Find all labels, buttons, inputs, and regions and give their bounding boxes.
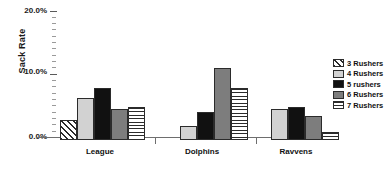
bar-league-7-rushers (128, 107, 145, 140)
y-minor-tick (52, 112, 56, 113)
bar-ravvens-5-rushers (288, 107, 305, 140)
y-minor-tick (52, 80, 56, 81)
bar-league-6-rushers (111, 109, 128, 141)
legend-swatch-3-rushers (333, 59, 344, 67)
y-minor-tick (52, 99, 56, 100)
bar-league-5-rushers (94, 88, 111, 140)
legend-item-7-rushers[interactable]: 7 Rushers (333, 100, 391, 111)
legend-label-5-rushers: 5 rushers (347, 80, 381, 89)
x-axis-label-dolphins: Dolphins (162, 147, 242, 156)
category-separator (256, 137, 257, 144)
bar-dolphins-7-rushers (231, 88, 248, 140)
x-axis-label-ravvens: Ravvens (258, 147, 334, 156)
y-minor-tick (52, 29, 56, 30)
bar-dolphins-5-rushers (197, 112, 214, 140)
y-minor-tick (52, 67, 56, 68)
legend-label-3-rushers: 3 Rushers (347, 59, 383, 68)
bar-ravvens-4-rushers (271, 109, 288, 141)
category-separator (155, 137, 156, 144)
legend: 3 Rushers 4 Rushers 5 rushers 6 Rushers … (333, 58, 391, 111)
y-minor-tick (52, 36, 56, 37)
bar-group-dolphins (163, 8, 251, 140)
bar-group-league (60, 8, 148, 140)
legend-swatch-4-rushers (333, 70, 344, 78)
bar-dolphins-4-rushers (180, 126, 197, 140)
legend-item-3-rushers[interactable]: 3 Rushers (333, 58, 391, 69)
legend-swatch-6-rushers (333, 91, 344, 99)
legend-label-6-rushers: 6 Rushers (347, 90, 383, 99)
legend-swatch-7-rushers (333, 101, 344, 109)
y-axis: 20.0% 10.0% 0.0% (0, 0, 56, 140)
y-minor-tick (52, 61, 56, 62)
legend-swatch-5-rushers (333, 80, 344, 88)
legend-item-6-rushers[interactable]: 6 Rushers (333, 90, 391, 101)
y-tick-mark-20 (50, 11, 57, 12)
y-minor-tick (52, 93, 56, 94)
legend-label-4-rushers: 4 Rushers (347, 69, 383, 78)
y-minor-tick (52, 42, 56, 43)
x-axis-label-league: League (62, 147, 138, 156)
bar-dolphins-6-rushers (214, 68, 231, 140)
y-tick-label-10: 10.0% (24, 67, 47, 76)
bar-group-ravvens (254, 8, 342, 140)
y-minor-tick (52, 23, 56, 24)
y-minor-tick (52, 17, 56, 18)
legend-label-7-rushers: 7 Rushers (347, 101, 383, 110)
y-minor-tick (52, 105, 56, 106)
legend-item-4-rushers[interactable]: 4 Rushers (333, 69, 391, 80)
bar-league-4-rushers (77, 98, 94, 140)
bar-ravvens-7-rushers (322, 132, 339, 140)
y-minor-tick (52, 48, 56, 49)
y-minor-tick (52, 118, 56, 119)
y-minor-tick (52, 55, 56, 56)
bar-ravvens-6-rushers (305, 116, 322, 140)
y-tick-label-20: 20.0% (24, 6, 47, 15)
legend-item-5-rushers[interactable]: 5 rushers (333, 79, 391, 90)
bar-league-3-rushers (60, 120, 77, 140)
y-minor-tick (52, 131, 56, 132)
plot-area (58, 8, 318, 140)
chart-canvas: Sack Rate 20.0% 10.0% 0.0% (0, 0, 391, 172)
y-tick-mark-10 (50, 74, 57, 75)
y-minor-tick (52, 124, 56, 125)
y-minor-tick (52, 86, 56, 87)
